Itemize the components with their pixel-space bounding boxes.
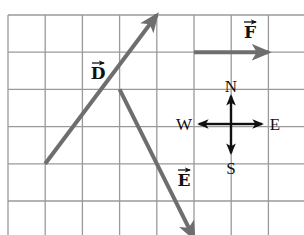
compass-rose: N S W E [176,77,280,178]
vector-e-label: E [178,170,191,190]
compass-label-west: W [176,115,193,134]
compass-label-east: E [270,115,280,134]
compass-label-south: S [226,159,235,178]
vector-d-label: D [91,63,106,83]
compass-label-north: N [225,77,237,96]
vector-f-label: F [244,22,256,42]
vector-diagram: DEF N S W E [0,0,304,235]
